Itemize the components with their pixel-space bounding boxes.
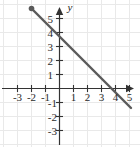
y-tick-label-neg1: -1: [48, 97, 57, 109]
y-axis-label: y: [67, 1, 73, 13]
x-tick-label-3: 3: [99, 91, 105, 103]
y-tick-label-1: 1: [48, 69, 54, 81]
graph-canvas: -3 -2 -1 1 2 3 4 5 5 4 3 2 1 -1 -2 -3 y: [0, 0, 140, 147]
y-tick-label-neg3: -3: [48, 125, 58, 137]
y-tick-label-5: 5: [48, 13, 54, 25]
line-endpoint-dot: [29, 6, 35, 12]
y-tick-label-3: 3: [48, 41, 54, 53]
x-tick-label-4: 4: [113, 91, 119, 103]
coordinate-plane-figure: -3 -2 -1 1 2 3 4 5 5 4 3 2 1 -1 -2 -3 y: [0, 0, 140, 147]
y-tick-label-2: 2: [48, 55, 54, 67]
x-tick-label-1: 1: [71, 91, 77, 103]
x-tick-label-neg2: -2: [27, 91, 36, 103]
y-tick-label-neg2: -2: [48, 111, 57, 123]
y-tick-label-4: 4: [48, 27, 54, 39]
plot-background: [0, 0, 140, 147]
x-tick-label-neg3: -3: [13, 91, 23, 103]
x-tick-label-5: 5: [127, 91, 133, 103]
x-tick-label-2: 2: [85, 91, 91, 103]
